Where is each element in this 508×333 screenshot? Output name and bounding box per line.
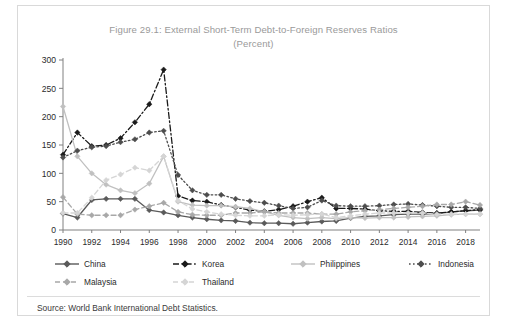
data-point-marker	[262, 200, 267, 205]
x-tick-label: 2012	[370, 237, 389, 247]
legend-item-philippines[interactable]: Philippines	[290, 258, 408, 270]
data-point-marker	[262, 221, 267, 226]
data-point-marker	[161, 67, 166, 72]
figure-panel: Figure 29.1: External Short-Term Debt-to…	[17, 5, 490, 316]
x-tick-label: 2014	[399, 237, 418, 247]
x-tick-label: 1994	[111, 237, 130, 247]
x-tick-label: 2002	[226, 237, 245, 247]
legend-item-china[interactable]: China	[54, 258, 172, 270]
data-point-marker	[290, 221, 295, 226]
data-point-marker	[276, 221, 281, 226]
y-tick-label: 150	[42, 140, 57, 150]
data-point-marker	[132, 137, 137, 142]
data-point-marker	[204, 209, 209, 214]
x-tick-label: 1996	[140, 237, 159, 247]
legend-item-thailand[interactable]: Thailand	[172, 276, 290, 288]
data-point-marker	[204, 203, 209, 208]
data-point-marker	[118, 139, 123, 144]
legend-key-korea	[172, 258, 198, 270]
figure-title-line2: (Percent)	[18, 37, 489, 51]
data-point-marker	[161, 128, 166, 133]
chart-legend: ChinaKoreaPhilippinesIndonesia MalaysiaT…	[18, 255, 489, 295]
legend-key-malaysia	[54, 276, 80, 288]
source-separator	[27, 296, 480, 297]
data-point-marker	[305, 199, 310, 204]
data-point-marker	[132, 207, 137, 212]
data-point-marker	[477, 202, 482, 207]
legend-label-china: China	[84, 258, 106, 270]
data-point-marker	[190, 206, 195, 211]
x-tick-label: 2010	[341, 237, 360, 247]
data-point-marker	[319, 211, 324, 216]
x-tick-label: 2008	[313, 237, 332, 247]
legend-key-thailand	[172, 276, 198, 288]
data-point-marker	[103, 196, 108, 201]
legend-key-marker	[64, 279, 70, 285]
data-point-marker	[204, 192, 209, 197]
figure-title-line1: Figure 29.1: External Short-Term Debt-to…	[18, 23, 489, 37]
data-point-marker	[118, 188, 123, 193]
legend-key-marker	[182, 261, 188, 267]
legend-row-2: MalaysiaThailand	[18, 273, 489, 291]
data-point-marker	[262, 213, 267, 218]
x-tick-label: 2006	[284, 237, 303, 247]
data-point-marker	[463, 211, 468, 216]
data-point-marker	[233, 204, 238, 209]
x-tick-label: 1992	[82, 237, 101, 247]
data-point-marker	[103, 213, 108, 218]
data-point-marker	[118, 213, 123, 218]
series-line	[63, 106, 480, 218]
legend-key-marker	[64, 261, 70, 267]
x-tick-label: 2004	[255, 237, 274, 247]
x-tick-label: 1998	[169, 237, 188, 247]
data-point-marker	[218, 192, 223, 197]
legend-key-indonesia	[408, 258, 434, 270]
data-point-marker	[463, 199, 468, 204]
y-tick-label: 300	[42, 55, 57, 65]
data-point-marker	[132, 165, 137, 170]
x-tick-label: 2000	[197, 237, 216, 247]
y-tick-label: 0	[51, 225, 56, 235]
data-point-marker	[247, 198, 252, 203]
data-point-marker	[118, 172, 123, 177]
legend-key-china	[54, 258, 80, 270]
legend-item-indonesia[interactable]: Indonesia	[408, 258, 508, 270]
data-point-marker	[477, 211, 482, 216]
data-point-marker	[305, 205, 310, 210]
y-tick-label: 50	[46, 197, 56, 207]
legend-label-malaysia: Malaysia	[84, 276, 117, 288]
legend-label-thailand: Thailand	[202, 276, 234, 288]
data-point-marker	[218, 203, 223, 208]
x-tick-label: 2016	[428, 237, 447, 247]
data-point-marker	[233, 218, 238, 223]
legend-label-korea: Korea	[202, 258, 224, 270]
data-point-marker	[118, 196, 123, 201]
legend-item-korea[interactable]: Korea	[172, 258, 290, 270]
data-point-marker	[233, 196, 238, 201]
chart-plot-area: 0501001502002503001990199219941996199820…	[18, 52, 489, 260]
legend-key-marker	[300, 261, 306, 267]
data-point-marker	[218, 218, 223, 223]
series-line	[63, 199, 480, 224]
data-point-marker	[405, 205, 410, 210]
series-line	[63, 156, 480, 217]
series-korea	[60, 67, 482, 216]
figure-title: Figure 29.1: External Short-Term Debt-to…	[18, 23, 489, 51]
data-point-marker	[60, 210, 65, 215]
source-note: Source: World Bank International Debt St…	[37, 303, 218, 313]
legend-row-1: ChinaKoreaPhilippinesIndonesia	[18, 255, 489, 273]
series-china	[60, 196, 482, 226]
legend-item-malaysia[interactable]: Malaysia	[54, 276, 172, 288]
x-tick-label: 2018	[456, 237, 475, 247]
data-point-marker	[147, 130, 152, 135]
legend-label-philippines: Philippines	[320, 258, 360, 270]
legend-key-marker	[418, 261, 424, 267]
data-point-marker	[161, 210, 166, 215]
legend-key-marker	[182, 279, 188, 285]
x-tick-label: 1990	[54, 237, 73, 247]
y-tick-label: 100	[42, 169, 57, 179]
series-line	[63, 131, 480, 209]
data-point-marker	[60, 104, 65, 109]
y-tick-label: 250	[42, 84, 57, 94]
line-chart: 0501001502002503001990199219941996199820…	[18, 52, 489, 260]
